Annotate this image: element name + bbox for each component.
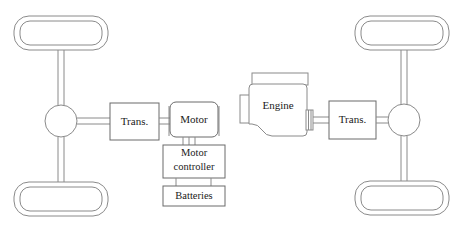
powertrain-svg: Trans. Motor Motor controller	[0, 0, 464, 227]
right-transmission-label: Trans.	[339, 113, 367, 125]
left-transmission-label: Trans.	[121, 115, 149, 127]
engine-assembly: Engine	[240, 73, 313, 136]
powertrain-diagram: Trans. Motor Motor controller	[0, 0, 464, 227]
rear-right-wheel	[355, 181, 449, 215]
front-left-wheel	[14, 16, 108, 50]
lower-left-axle-shaft	[58, 137, 64, 182]
motor-controller-box: Motor controller	[163, 145, 225, 178]
front-right-wheel	[355, 16, 449, 50]
left-diff-to-trans-shaft	[77, 118, 110, 124]
lower-right-axle-shaft	[401, 136, 407, 181]
motor-controller-label-line2: controller	[174, 161, 215, 172]
engine-to-trans-shaft	[313, 117, 329, 123]
motor-controller-label-line1: Motor	[181, 147, 208, 158]
batteries-label: Batteries	[175, 190, 212, 201]
rear-left-wheel	[14, 182, 108, 216]
engine-label: Engine	[262, 99, 293, 111]
left-differential	[45, 105, 77, 137]
motor-to-controller-phase-leads	[183, 137, 195, 145]
trans-to-motor-shaft	[159, 118, 170, 124]
left-transmission-box: Trans.	[110, 103, 159, 140]
right-transmission-box: Trans.	[329, 101, 376, 139]
controller-to-batteries-leads	[176, 178, 211, 186]
right-differential	[388, 104, 420, 136]
upper-right-axle-shaft	[401, 50, 407, 105]
batteries-box: Batteries	[163, 186, 225, 206]
motor-box: Motor	[169, 102, 219, 137]
motor-label: Motor	[180, 113, 208, 125]
upper-left-axle-shaft	[58, 50, 64, 106]
